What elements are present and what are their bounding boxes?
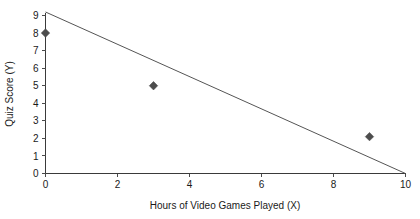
y-axis-tick-label: 2 bbox=[33, 133, 39, 144]
y-axis-tick-label: 4 bbox=[33, 98, 39, 109]
y-axis-title: Quiz Score (Y) bbox=[4, 61, 15, 127]
y-axis-tick-label: 0 bbox=[33, 168, 39, 179]
y-axis-tick-label: 9 bbox=[33, 10, 39, 21]
x-axis-title: Hours of Video Games Played (X) bbox=[150, 200, 300, 211]
x-axis-tick-label: 8 bbox=[331, 179, 337, 190]
x-axis-tick-label: 6 bbox=[259, 179, 265, 190]
y-axis-tick-label: 3 bbox=[33, 115, 39, 126]
y-axis-tick-label: 5 bbox=[33, 80, 39, 91]
y-axis-tick-label: 6 bbox=[33, 63, 39, 74]
scatter-plot-figure: 0123456789 0246810 Hours of Video Games … bbox=[0, 0, 420, 219]
x-axis-tick-label: 10 bbox=[400, 179, 412, 190]
y-axis-tick-label: 1 bbox=[33, 151, 39, 162]
chart-canvas: 0123456789 0246810 Hours of Video Games … bbox=[0, 0, 420, 219]
x-axis-tick-label: 0 bbox=[43, 179, 49, 190]
chart-background bbox=[0, 0, 420, 219]
x-axis-tick-label: 2 bbox=[115, 179, 121, 190]
x-axis-tick-label: 4 bbox=[187, 179, 193, 190]
y-axis-tick-label: 7 bbox=[33, 45, 39, 56]
y-axis-tick-label: 8 bbox=[33, 28, 39, 39]
